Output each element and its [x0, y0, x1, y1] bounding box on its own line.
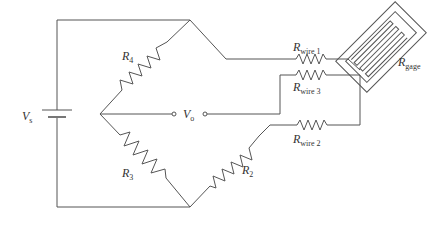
vo-right-terminal-icon	[203, 112, 207, 116]
label-vo-sub: o	[190, 114, 194, 123]
resistor-r4-icon	[100, 20, 190, 114]
resistor-r2-icon	[190, 125, 270, 207]
vo-right-lead	[207, 75, 296, 114]
label-rwire2: Rwire 2	[293, 133, 321, 148]
label-rgage-sub: gage	[405, 62, 420, 71]
vo-left-terminal-icon	[172, 112, 176, 116]
label-rwire2-sub: wire 2	[300, 139, 320, 148]
strain-gage-icon	[336, 2, 427, 93]
label-r2: R2	[242, 164, 253, 179]
label-vs: Vs	[22, 110, 32, 125]
label-rwire3-sub: wire 3	[300, 87, 320, 96]
top-wire	[57, 20, 190, 110]
label-rwire1: Rwire 1	[293, 41, 321, 56]
resistor-rwire3-icon	[296, 70, 360, 80]
resistor-r3-icon	[100, 114, 190, 207]
label-rwire3: Rwire 3	[293, 81, 321, 96]
label-vs-sub: s	[29, 116, 32, 125]
label-r3: R3	[122, 167, 133, 182]
circuit-diagram	[0, 0, 441, 225]
label-rwire1-sub: wire 1	[300, 47, 320, 56]
label-r2-sub: 2	[249, 170, 253, 179]
bottom-wire	[57, 118, 190, 207]
label-r4-sub: 4	[129, 56, 133, 65]
wire-to-rwire1	[190, 20, 296, 59]
battery-icon	[42, 110, 72, 117]
label-vo: Vo	[183, 108, 194, 123]
label-r4: R4	[122, 50, 133, 65]
label-r3-sub: 3	[129, 173, 133, 182]
label-rgage: Rgage	[398, 56, 420, 71]
